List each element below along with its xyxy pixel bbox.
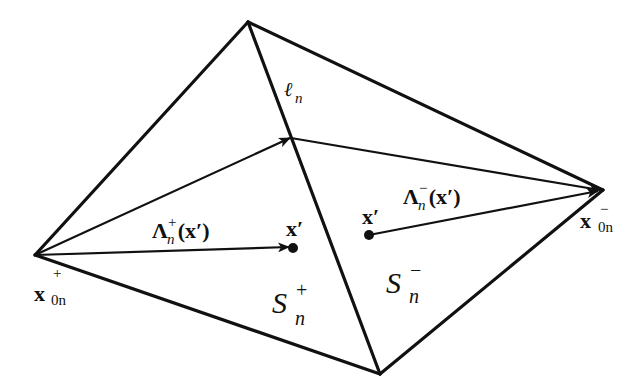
label-x0n-minus-base: x [580, 208, 591, 233]
label-x0n-plus-sup: + [53, 266, 61, 281]
label-lambda-minus: Λ(x′) − n [403, 186, 461, 208]
label-lambda-minus-sub: n [418, 198, 426, 213]
label-x0n-plus-sub: 0n [51, 293, 66, 308]
label-x0n-minus: x − 0n [580, 210, 591, 232]
label-s-minus-sup: − [410, 260, 421, 280]
label-x-prime-left: x′ [286, 218, 303, 240]
label-edge-ln: ℓ n [284, 79, 292, 99]
label-x0n-plus-base: x [34, 281, 45, 306]
label-lambda-plus-sup: + [168, 215, 176, 230]
point-x-prime-left [288, 243, 298, 253]
label-lambda-plus: Λ(x′) + n [152, 220, 210, 242]
label-s-plus: S + n [272, 288, 287, 318]
label-x0n-plus: x + 0n [34, 283, 45, 305]
triangle-pair-diagram [0, 0, 642, 391]
label-s-plus-sub: n [295, 308, 305, 328]
label-x0n-minus-sup: − [600, 202, 608, 217]
label-lambda-minus-sup: − [419, 181, 427, 196]
label-s-plus-sup: + [296, 280, 307, 300]
label-x0n-minus-sub: 0n [598, 220, 613, 235]
label-edge-ln-base: ℓ [284, 78, 292, 100]
label-x-prime-right: x′ [362, 206, 379, 228]
label-s-plus-base: S [272, 286, 287, 319]
label-lambda-minus-base: Λ [403, 184, 419, 209]
label-s-minus: S − n [386, 268, 401, 298]
edge-left-top [35, 22, 248, 255]
label-s-minus-base: S [386, 266, 401, 299]
label-s-minus-sub: n [409, 286, 419, 306]
vector-lambda-plus [35, 247, 289, 255]
vector-midpoint-to-x0n-minus [291, 138, 600, 190]
point-x-prime-right [364, 230, 374, 240]
edge-bottom-right [380, 190, 603, 374]
label-lambda-plus-base: Λ [152, 218, 168, 243]
label-edge-ln-sub: n [295, 91, 303, 106]
edge-left-bottom [35, 255, 380, 374]
label-lambda-minus-arg: (x′) [429, 184, 461, 209]
label-lambda-plus-arg: (x′) [178, 218, 210, 243]
label-lambda-plus-sub: n [167, 232, 175, 247]
